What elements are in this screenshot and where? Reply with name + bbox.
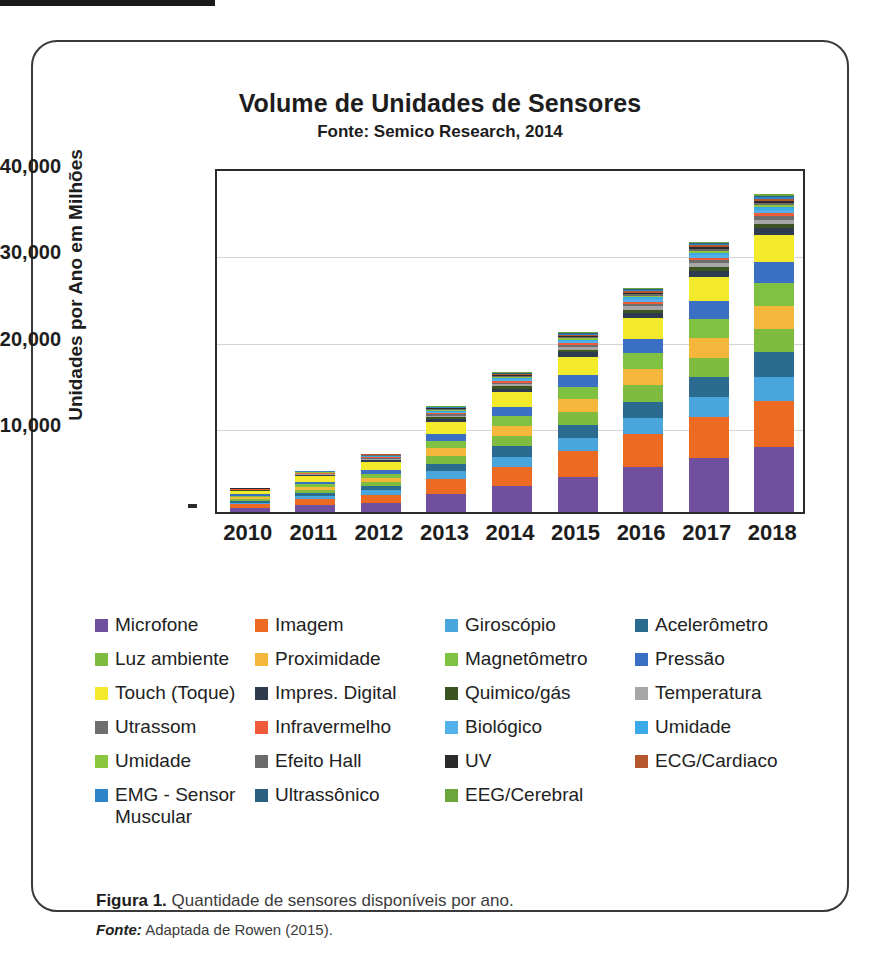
- legend-item[interactable]: Quimico/gás: [445, 682, 588, 716]
- legend-item-label: Pressão: [655, 648, 725, 670]
- bar-2016[interactable]: [623, 288, 663, 512]
- x-axis-label-2018: 2018: [739, 520, 805, 546]
- caption-source-text: Adaptada de Rowen (2015).: [142, 921, 333, 938]
- x-axis-label-2010: 2010: [215, 520, 281, 546]
- legend-item[interactable]: Microfone: [95, 614, 235, 648]
- bar-segment: [492, 416, 532, 425]
- bar-segment: [426, 441, 466, 448]
- bar-segment: [492, 436, 532, 446]
- legend-item[interactable]: ECG/Cardiaco: [635, 750, 778, 784]
- bar-segment: [426, 448, 466, 456]
- legend-item[interactable]: Touch (Toque): [95, 682, 235, 716]
- bar-segment: [295, 505, 335, 512]
- bar-segment: [689, 397, 729, 417]
- bar-segment: [230, 508, 270, 512]
- legend-item-label: Impres. Digital: [275, 682, 396, 704]
- bar-segment: [623, 318, 663, 339]
- legend-swatch-icon: [255, 619, 268, 632]
- bar-segment: [492, 486, 532, 512]
- legend-item-label: Umidade: [115, 750, 191, 772]
- bar-segment: [754, 283, 794, 305]
- bar-segment: [492, 457, 532, 467]
- x-axis-labels: 201020112012201320142015201620172018: [215, 520, 805, 552]
- legend-item[interactable]: Magnetômetro: [445, 648, 588, 682]
- caption-figure-text: Quantidade de sensores disponíveis por a…: [167, 891, 514, 910]
- legend-item[interactable]: UV: [445, 750, 588, 784]
- x-axis-label-2011: 2011: [280, 520, 346, 546]
- legend-item[interactable]: Ultrassônico: [255, 784, 396, 818]
- legend-swatch-icon: [445, 789, 458, 802]
- plot-wrapper: [215, 169, 805, 514]
- legend-item-label: Microfone: [115, 614, 198, 636]
- y-axis-tick-label: 30,000: [0, 241, 61, 264]
- bar-segment: [492, 392, 532, 407]
- y-axis-tick-label: 10,000: [0, 414, 61, 437]
- legend-item[interactable]: Efeito Hall: [255, 750, 396, 784]
- bar-segment: [426, 456, 466, 464]
- bar-segment: [689, 417, 729, 458]
- legend-swatch-icon: [95, 721, 108, 734]
- bar-segment: [754, 447, 794, 512]
- x-axis-label-2012: 2012: [346, 520, 412, 546]
- y-axis-tick-label: 40,000: [0, 155, 61, 178]
- chart-title: Volume de Unidades de Sensores: [33, 89, 847, 118]
- legend-column-1: MicrofoneLuz ambienteTouch (Toque)Utrass…: [95, 614, 235, 818]
- bar-segment: [754, 401, 794, 448]
- bar-2011[interactable]: [295, 471, 335, 512]
- legend-item[interactable]: Imagem: [255, 614, 396, 648]
- bar-2017[interactable]: [689, 242, 729, 512]
- bar-2014[interactable]: [492, 372, 532, 512]
- legend-item[interactable]: EMG - Sensor Muscular: [95, 784, 235, 818]
- legend-swatch-icon: [255, 653, 268, 666]
- bar-2018[interactable]: [754, 194, 794, 512]
- bar-segment: [492, 467, 532, 486]
- bar-segment: [426, 464, 466, 472]
- legend-swatch-icon: [635, 653, 648, 666]
- legend-item-label: Acelerômetro: [655, 614, 768, 636]
- bar-segment: [492, 426, 532, 436]
- legend-item[interactable]: Umidade: [95, 750, 235, 784]
- legend-item[interactable]: Temperatura: [635, 682, 778, 716]
- bar-2012[interactable]: [361, 454, 401, 512]
- legend-swatch-icon: [445, 755, 458, 768]
- x-axis-label-2016: 2016: [608, 520, 674, 546]
- legend-item[interactable]: Infravermelho: [255, 716, 396, 750]
- bar-segment: [426, 471, 466, 479]
- bar-2015[interactable]: [558, 332, 598, 512]
- bar-segment: [689, 338, 729, 358]
- bar-segment: [689, 358, 729, 378]
- legend-item[interactable]: Biológico: [445, 716, 588, 750]
- legend-item[interactable]: Proximidade: [255, 648, 396, 682]
- legend-item[interactable]: Pressão: [635, 648, 778, 682]
- legend-item-label: Biológico: [465, 716, 542, 738]
- bar-segment: [558, 477, 598, 512]
- bar-segment: [361, 495, 401, 503]
- legend-item[interactable]: Utrassom: [95, 716, 235, 750]
- figure-caption: Figura 1. Quantidade de sensores disponí…: [96, 888, 796, 942]
- legend-item-label: EMG - Sensor Muscular: [115, 784, 235, 828]
- legend-swatch-icon: [95, 789, 108, 802]
- bar-2010[interactable]: [230, 488, 270, 512]
- bar-segment: [689, 319, 729, 338]
- bar-segment: [754, 262, 794, 284]
- bar-segment: [558, 399, 598, 412]
- bar-segment: [754, 352, 794, 376]
- bar-segment: [558, 425, 598, 438]
- legend-item[interactable]: EEG/Cerebral: [445, 784, 588, 818]
- legend-item[interactable]: Luz ambiente: [95, 648, 235, 682]
- legend-item[interactable]: Impres. Digital: [255, 682, 396, 716]
- legend-item-label: Efeito Hall: [275, 750, 362, 772]
- legend-item[interactable]: Umidade: [635, 716, 778, 750]
- bar-2013[interactable]: [426, 406, 466, 512]
- bar-segment: [558, 357, 598, 375]
- bar-segment: [754, 306, 794, 329]
- bar-segment: [623, 353, 663, 369]
- legend-item[interactable]: Giroscópio: [445, 614, 588, 648]
- bar-segment: [361, 503, 401, 512]
- bar-segment: [689, 301, 729, 319]
- legend-item[interactable]: Acelerômetro: [635, 614, 778, 648]
- legend-swatch-icon: [255, 721, 268, 734]
- x-axis-label-2015: 2015: [543, 520, 609, 546]
- legend-swatch-icon: [95, 755, 108, 768]
- legend-item-label: Imagem: [275, 614, 344, 636]
